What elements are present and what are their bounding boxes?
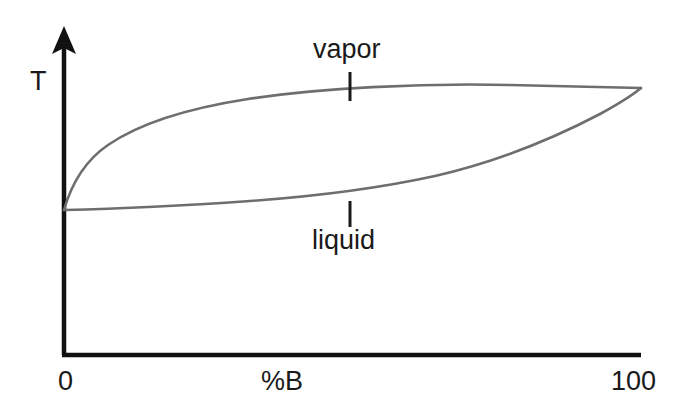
vapor-label: vapor [313,36,381,63]
y-axis-label: T [30,68,47,95]
liquid-label: liquid [312,227,375,254]
phase-diagram-figure: T vapor liquid 0 %B 100 [0,0,691,415]
x-axis-tick-min: 0 [58,368,73,395]
x-axis-label: %B [261,368,303,395]
x-axis-tick-max: 100 [611,368,656,395]
liquid-curve [64,88,641,210]
